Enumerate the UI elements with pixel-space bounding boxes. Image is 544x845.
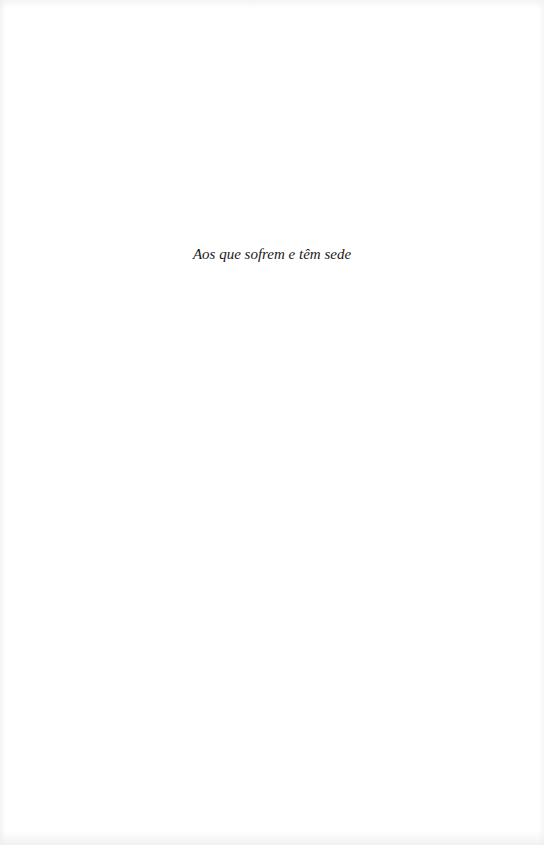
- scan-edge-right: [538, 0, 544, 845]
- dedication-text: Aos que sofrem e têm sede: [0, 244, 544, 264]
- scan-edge-top: [0, 0, 544, 8]
- scan-edge-left: [0, 0, 6, 845]
- book-page: Aos que sofrem e têm sede: [0, 0, 544, 845]
- scan-edge-bottom: [0, 831, 544, 845]
